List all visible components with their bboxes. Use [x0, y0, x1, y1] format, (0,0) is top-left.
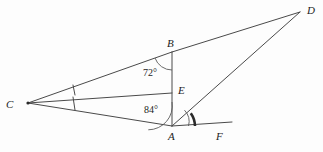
segment-B-D — [172, 12, 300, 52]
segment-C-E — [28, 93, 172, 103]
vertex-label-A: A — [168, 131, 175, 142]
geometry-figure — [0, 0, 323, 152]
segment-A-D — [172, 12, 300, 126]
vertex-label-B: B — [167, 38, 174, 49]
angle-label-72: 72° — [143, 68, 157, 78]
bisector-tick-lower — [73, 97, 75, 110]
angle-arc-at-B — [155, 58, 172, 70]
vertex-label-D: D — [307, 5, 315, 16]
vertex-label-F: F — [216, 131, 223, 142]
vertex-dot-C — [26, 101, 29, 104]
angle-arc-at-A-emphasized — [191, 113, 195, 126]
bisector-tick-marks-at-C — [73, 85, 75, 110]
angle-arc-at-A-inner — [185, 110, 190, 126]
angle-label-84: 84° — [144, 105, 158, 115]
vertex-label-C: C — [6, 99, 13, 110]
vertex-label-E: E — [178, 85, 185, 96]
diagram-page: C B E A D F 72° 84° — [0, 0, 323, 152]
segment-A-F — [172, 122, 232, 126]
